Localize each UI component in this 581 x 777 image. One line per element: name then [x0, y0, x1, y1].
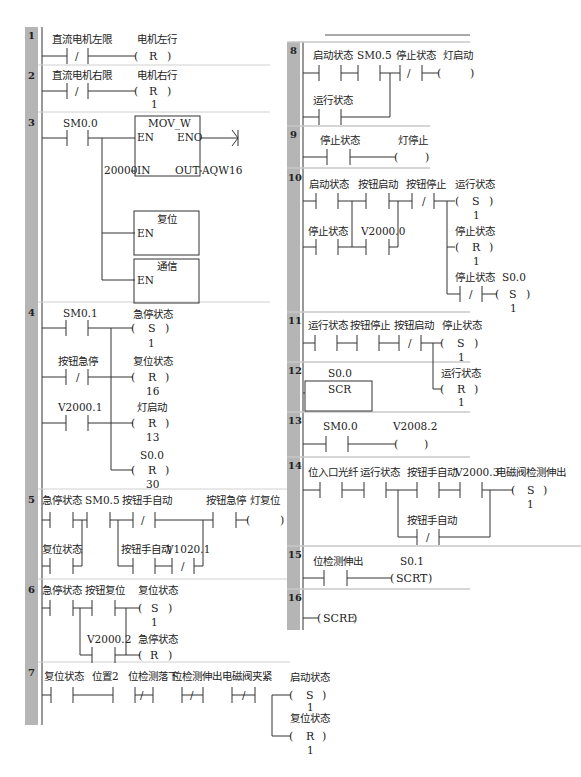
svg-text:按钮启动: 按钮启动	[358, 178, 398, 190]
network-number: 13	[288, 415, 302, 426]
svg-text:AQW16: AQW16	[201, 164, 243, 176]
network-number: 2	[28, 70, 35, 81]
svg-text:1: 1	[307, 744, 314, 756]
svg-text:S0.1: S0.1	[400, 555, 424, 567]
svg-text:V2000.0: V2000.0	[360, 225, 405, 237]
svg-text:): )	[165, 371, 169, 384]
network-10: 启动状态 按钮启动 按钮停止 运行状态 / (S) 1 停止状态 V2000.0…	[303, 178, 530, 314]
network-6: 急停状态 按钮复位 复位状态 (S) 1 V2000.2 急停状态 (R)	[42, 584, 179, 663]
svg-text:停止状态: 停止状态	[442, 319, 483, 331]
svg-text:): )	[322, 689, 326, 702]
svg-text:R: R	[148, 464, 157, 477]
svg-text:(: (	[134, 85, 138, 98]
network-13: SM0.0 V2008.2 ()	[303, 420, 437, 452]
svg-text:): )	[167, 85, 171, 98]
svg-text:EN: EN	[137, 274, 154, 286]
svg-text:OUT: OUT	[175, 164, 199, 176]
coil-op: R	[149, 50, 158, 63]
svg-text:(: (	[455, 241, 459, 254]
svg-text:): )	[470, 67, 474, 80]
svg-text:1: 1	[148, 337, 155, 349]
network-number: 16	[288, 592, 302, 603]
svg-text:启动状态: 启动状态	[313, 49, 354, 61]
network-2: 直流电机右限 / 电机右行 ( R ) 1	[42, 69, 178, 110]
svg-text:复位状态: 复位状态	[44, 670, 85, 682]
svg-text:SM0.1: SM0.1	[63, 307, 98, 319]
svg-text:/: /	[76, 371, 80, 383]
svg-text:13: 13	[146, 431, 159, 443]
svg-text:/: /	[407, 67, 411, 79]
svg-text:30: 30	[146, 478, 159, 490]
svg-text:位检测伸出: 位检测伸出	[172, 670, 222, 682]
svg-text:位检测落下: 位检测落下	[128, 670, 178, 682]
svg-text:按钮急停: 按钮急停	[206, 494, 246, 506]
svg-text:): )	[489, 195, 493, 208]
network-5: 急停状态 SM0.5 按钮手自动 按钮急停 灯复位 / () 复位状态 按钮手自…	[42, 494, 284, 574]
network-12: S0.0 SCR	[303, 367, 372, 411]
svg-text:启动状态: 启动状态	[309, 178, 350, 190]
svg-text:): )	[165, 417, 169, 430]
network-number: 1	[28, 30, 35, 41]
svg-text:/: /	[242, 689, 246, 701]
svg-text:(: (	[390, 572, 394, 585]
contact-label: 直流电机左限	[52, 33, 113, 45]
svg-text:R: R	[148, 417, 157, 430]
contact-label: 直流电机右限	[52, 69, 113, 81]
network-number: 14	[288, 460, 302, 471]
svg-text:/: /	[408, 337, 412, 349]
svg-text:复位状态: 复位状态	[133, 355, 174, 367]
network-15: 位检测伸出 S0.1 ( SCRT )	[303, 555, 432, 586]
svg-text:R: R	[150, 649, 159, 662]
svg-text:运行状态: 运行状态	[308, 319, 349, 331]
svg-text:1: 1	[458, 351, 465, 363]
svg-text:停止状态: 停止状态	[320, 134, 361, 146]
svg-text:R: R	[148, 371, 157, 384]
network-4: SM0.1 按钮急停 / V2000.1 急停状态 (S) 1 复位状态 (R)…	[42, 307, 174, 490]
svg-text:1: 1	[151, 616, 158, 628]
svg-text:S: S	[457, 337, 465, 350]
coil-open-paren: (	[134, 50, 138, 63]
svg-text:S0.0: S0.0	[328, 367, 352, 379]
svg-text:(: (	[289, 730, 293, 743]
svg-text:运行状态: 运行状态	[455, 178, 496, 190]
svg-text:(: (	[131, 322, 135, 335]
network-14: 位入口光纤 运行状态 按钮手自动 V2000.3 电磁阀检测伸出 / (S) 1…	[303, 466, 566, 545]
svg-text:急停状态: 急停状态	[133, 308, 174, 320]
svg-text:急停状态: 急停状态	[138, 633, 179, 645]
svg-text:R: R	[149, 85, 158, 98]
coil-label: 电机右行	[137, 69, 178, 81]
svg-text:): )	[424, 438, 428, 451]
svg-text:(: (	[131, 417, 135, 430]
svg-text:按钮手自动: 按钮手自动	[122, 494, 172, 506]
svg-text:通信: 通信	[157, 260, 177, 272]
network-number: 10	[288, 172, 302, 183]
svg-text:): )	[474, 383, 478, 396]
svg-text:): )	[526, 288, 530, 301]
svg-text:按钮手自动: 按钮手自动	[407, 514, 457, 526]
svg-text:/: /	[75, 85, 79, 97]
svg-text:位检测伸出: 位检测伸出	[313, 555, 363, 567]
svg-text:/: /	[141, 514, 145, 526]
svg-text:(: (	[495, 288, 499, 301]
svg-text:/: /	[190, 689, 194, 701]
svg-text:): )	[165, 322, 169, 335]
svg-text:V2000.2: V2000.2	[86, 633, 131, 645]
svg-text:位入口光纤: 位入口光纤	[308, 466, 359, 478]
svg-text:): )	[353, 612, 357, 625]
svg-text:位置2: 位置2	[92, 670, 119, 682]
svg-text:SM0.0: SM0.0	[323, 420, 358, 432]
svg-text:(: (	[394, 151, 398, 164]
svg-text:): )	[322, 730, 326, 743]
svg-text:(: (	[138, 602, 142, 615]
svg-text:(: (	[131, 371, 135, 384]
svg-text:SM0.0: SM0.0	[63, 117, 98, 129]
network-9: 停止状态 灯停止 ()	[303, 134, 429, 165]
nc-slash: /	[75, 50, 79, 62]
svg-text:/: /	[181, 560, 185, 572]
svg-text:ENO: ENO	[177, 131, 203, 143]
svg-text:IN: IN	[137, 164, 150, 176]
eno-arrow	[200, 130, 238, 146]
svg-text:S: S	[148, 322, 156, 335]
svg-text:复位状态: 复位状态	[138, 584, 179, 596]
svg-text:/: /	[422, 195, 426, 207]
